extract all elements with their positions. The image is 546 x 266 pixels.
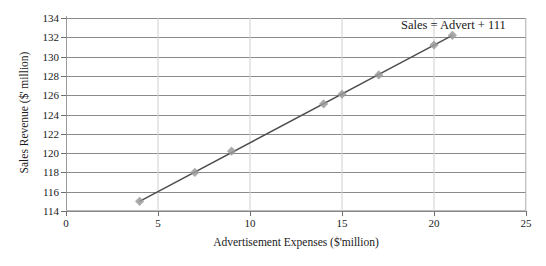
x-tick-mark [66,211,67,216]
data-series [66,18,526,211]
y-tick-label: 116 [43,186,59,198]
x-axis-title: Advertisement Expenses ($'million) [66,236,526,248]
y-tick-label: 134 [43,12,60,24]
y-tick-label: 132 [43,31,60,43]
chart-figure: Sales Revenue ($' million) Advertisement… [0,0,546,266]
x-tick-label: 15 [337,217,348,229]
data-point-marker [190,168,199,177]
x-tick-mark [526,211,527,216]
y-tick-label: 128 [43,70,60,82]
plot-area: 114116118120122124126128130132134 [66,18,526,211]
y-tick-label: 124 [43,109,60,121]
x-tick-mark [158,211,159,216]
trendline [140,35,453,201]
regression-equation-annotation: Sales = Advert + 111 [401,18,506,33]
y-tick-label: 118 [43,166,59,178]
data-point-marker [135,197,144,206]
gridline-y [66,211,526,212]
x-tick-label: 25 [521,217,532,229]
y-tick-label: 120 [43,147,60,159]
x-tick-mark [434,211,435,216]
x-tick-label: 10 [245,217,256,229]
y-tick-label: 126 [43,89,60,101]
data-point-marker [337,90,346,99]
data-point-marker [374,70,383,79]
data-point-marker [429,40,438,49]
y-axis-title: Sales Revenue ($' million) [18,13,31,213]
y-tick-label: 114 [43,205,59,217]
data-point-marker [319,99,328,108]
x-tick-mark [342,211,343,216]
x-tick-label: 20 [429,217,440,229]
x-tick-mark [250,211,251,216]
x-tick-label: 0 [63,217,69,229]
x-tick-label: 5 [155,217,161,229]
y-tick-label: 122 [43,128,60,140]
y-tick-label: 130 [43,51,60,63]
